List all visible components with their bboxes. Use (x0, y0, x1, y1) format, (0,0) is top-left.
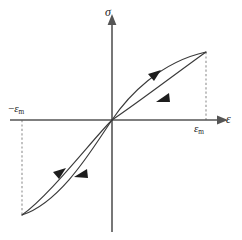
negative-strain-max-label: −εm (8, 103, 24, 116)
hysteresis-curve (22, 52, 206, 215)
stress-axis-label: σ (105, 6, 111, 18)
plot-canvas (0, 0, 242, 240)
curve-upper-unloading-branch (112, 52, 206, 120)
strain-axis-label: ε (226, 113, 231, 125)
arrow-upper-unloading-icon (156, 93, 170, 102)
positive-strain-max-subscript: m (198, 128, 204, 136)
positive-strain-max-label: εm (194, 123, 204, 136)
hysteresis-loop-figure: σ ε εm −εm (0, 0, 242, 240)
curve-lower-loading-branch (22, 120, 112, 215)
negative-strain-max-subscript: m (19, 108, 25, 116)
